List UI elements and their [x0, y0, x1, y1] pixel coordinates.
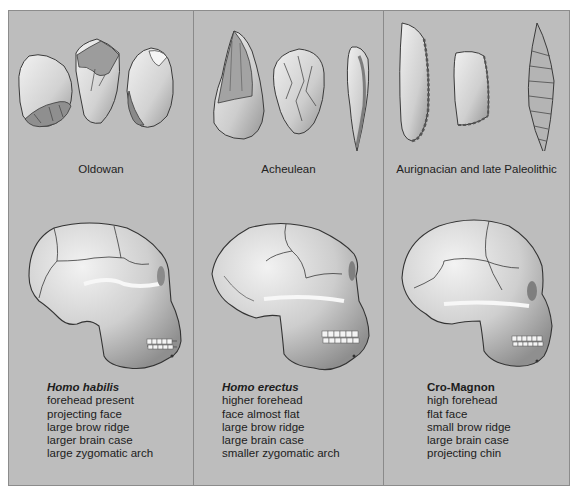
trait-item: larger brain case — [47, 434, 153, 447]
trait-item: projecting face — [47, 408, 153, 421]
oldowan-tools-illustration — [9, 11, 193, 151]
trait-item: face almost flat — [222, 408, 340, 421]
point-tool-icon — [347, 47, 368, 151]
trait-item: projecting chin — [427, 447, 511, 460]
acheulean-tools-illustration — [194, 11, 383, 151]
species-name: Cro-Magnon — [427, 381, 511, 394]
species-name: Homo habilis — [47, 381, 153, 394]
species-description: Homo erectus higher forehead face almost… — [222, 381, 340, 461]
trait-item: high forehead — [427, 394, 511, 407]
trait-item: large brain case — [222, 434, 340, 447]
trait-item: forehead present — [47, 394, 153, 407]
species-description: Cro-Magnon high forehead flat face small… — [427, 381, 511, 461]
tool-industry-label: Acheulean — [194, 163, 383, 175]
homo-habilis-skull-illustration — [9, 206, 193, 381]
trait-item: flat face — [427, 408, 511, 421]
trait-item: higher forehead — [222, 394, 340, 407]
panel-homo-erectus: Acheulean — [194, 11, 384, 485]
trait-item: small brow ridge — [427, 421, 511, 434]
panel-homo-habilis: Oldowan — [9, 11, 194, 485]
blade-tool-icon — [400, 23, 429, 141]
trait-item: smaller zygomatic arch — [222, 447, 340, 460]
biface-tool-icon — [274, 49, 325, 134]
panel-cro-magnon: Aurignacian and late Paleolithic — [384, 11, 569, 485]
aurignacian-tools-illustration — [384, 11, 569, 151]
species-description: Homo habilis forehead present projecting… — [47, 381, 153, 461]
leaf-point-tool-icon — [528, 23, 554, 151]
species-name: Homo erectus — [222, 381, 340, 394]
endscraper-tool-icon — [454, 52, 489, 126]
scraper-tool-icon — [127, 48, 173, 127]
trait-item: large brow ridge — [47, 421, 153, 434]
flake-tool-icon — [76, 39, 120, 123]
homo-erectus-skull-illustration — [194, 206, 383, 381]
handaxe-tool-icon — [214, 31, 264, 139]
trait-item: large zygomatic arch — [47, 447, 153, 460]
trait-item: large brain case — [427, 434, 511, 447]
chopper-tool-icon — [19, 55, 72, 127]
tool-industry-label: Aurignacian and late Paleolithic — [384, 163, 569, 175]
cro-magnon-skull-illustration — [384, 206, 569, 381]
tool-industry-label: Oldowan — [9, 163, 193, 175]
hominid-comparison-figure: Oldowan — [8, 10, 570, 486]
trait-item: large brow ridge — [222, 421, 340, 434]
